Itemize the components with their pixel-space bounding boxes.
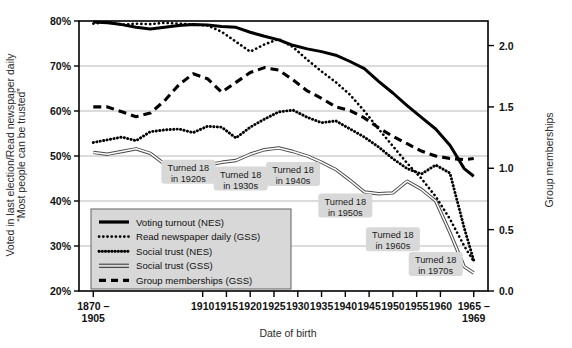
- annotation-label-line1: Turned 18: [220, 170, 262, 180]
- legend-label: Social trust (NES): [136, 246, 212, 257]
- left-tick-label: 40%: [50, 195, 72, 207]
- y-axis-right-title: Group memberships: [543, 112, 555, 207]
- annotation-label-line2: in 1930s: [223, 181, 258, 191]
- left-tick-label: 30%: [50, 240, 72, 252]
- annotation-box: Turned 18in 1940s: [266, 162, 320, 186]
- x-tick-label: 1945: [357, 300, 381, 312]
- annotation-box: Turned 18in 1960s: [366, 227, 420, 251]
- right-tick-label: 1.5: [499, 101, 514, 113]
- annotation-label-line2: in 1970s: [418, 266, 453, 276]
- x-tick-label-second-line: 1905: [82, 312, 106, 324]
- left-tick-label: 60%: [50, 105, 72, 117]
- x-tick-label: 1915: [215, 300, 239, 312]
- annotation-label-line1: Turned 18: [415, 255, 457, 265]
- x-axis-title: Date of birth: [259, 327, 316, 339]
- annotation-label-line2: in 1920s: [171, 174, 206, 184]
- legend-label: Voting turnout (NES): [136, 217, 224, 228]
- x-tick-label: 1920: [239, 300, 263, 312]
- x-tick-label: 1935: [310, 300, 334, 312]
- chart-legend: Voting turnout (NES)Read newspaper daily…: [91, 209, 291, 289]
- chart-container: 20%30%40%50%60%70%80% 0.00.51.01.52.0 18…: [0, 0, 572, 348]
- x-tick-label: 1940: [334, 300, 358, 312]
- annotation-label-line2: in 1950s: [328, 208, 363, 218]
- x-tick-label: 1910: [191, 300, 215, 312]
- left-tick-label: 70%: [50, 60, 72, 72]
- annotation-box: Turned 18in 1950s: [318, 194, 372, 218]
- x-tick-label: 1965 –: [458, 300, 490, 312]
- annotation-box: Turned 18in 1970s: [409, 252, 463, 276]
- left-tick-label: 80%: [50, 15, 72, 27]
- annotation-label-line1: Turned 18: [168, 163, 210, 173]
- legend-label: Group memberships (GSS): [136, 275, 252, 286]
- x-tick-label: 1960: [429, 300, 453, 312]
- x-tick-label: 1950: [381, 300, 405, 312]
- legend-label: Read newspaper daily (GSS): [136, 231, 260, 242]
- annotation-box: Turned 18in 1920s: [161, 160, 215, 184]
- annotation-label-line1: Turned 18: [272, 165, 314, 175]
- left-tick-label: 20%: [50, 285, 72, 297]
- right-tick-label: 0.0: [499, 285, 514, 297]
- annotation-label-line1: Turned 18: [372, 230, 414, 240]
- x-tick-label: 1955: [405, 300, 429, 312]
- x-tick-label: 1870 –: [77, 300, 109, 312]
- annotation-label-line2: in 1960s: [376, 241, 411, 251]
- x-tick-label-second-line: 1969: [462, 312, 486, 324]
- right-tick-label: 2.0: [499, 40, 514, 52]
- annotation-label-line2: in 1940s: [276, 176, 311, 186]
- left-tick-label: 50%: [50, 150, 72, 162]
- y-axis-left-title-line2: “Most people can be trusted”: [15, 88, 27, 222]
- generational-decline-line-chart: 20%30%40%50%60%70%80% 0.00.51.01.52.0 18…: [0, 0, 572, 348]
- annotation-box: Turned 18in 1930s: [214, 167, 268, 191]
- annotation-label-line1: Turned 18: [325, 197, 367, 207]
- legend-label: Social trust (GSS): [136, 260, 213, 271]
- right-tick-label: 0.5: [499, 224, 514, 236]
- x-tick-label: 1925: [262, 300, 286, 312]
- x-tick-label: 1930: [286, 300, 310, 312]
- right-tick-label: 1.0: [499, 162, 514, 174]
